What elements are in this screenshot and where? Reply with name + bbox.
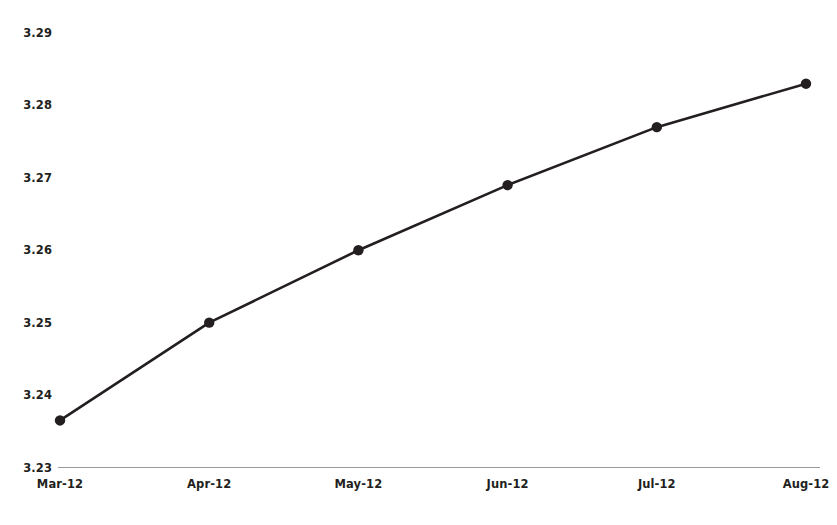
x-axis-tick-label: Apr-12 — [187, 477, 231, 491]
x-axis-tick-label: Aug-12 — [783, 477, 830, 491]
x-axis-tick-label: May-12 — [335, 477, 383, 491]
x-axis-tick-label: Jul-12 — [638, 477, 676, 491]
x-axis-tick-label: Jun-12 — [487, 477, 529, 491]
x-axis-labels: Mar-12Apr-12May-12Jun-12Jul-12Aug-12 — [0, 0, 837, 525]
x-axis-tick-label: Mar-12 — [37, 477, 83, 491]
line-chart: 3.233.243.253.263.273.283.29 Mar-12Apr-1… — [0, 0, 837, 525]
